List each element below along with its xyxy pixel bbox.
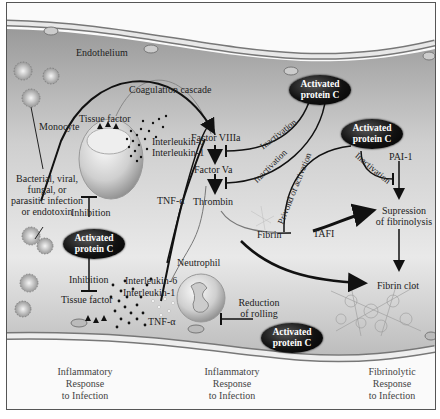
label-pai1: PAI-1 (389, 151, 413, 162)
caption-inflammatory-response-2: Inflammatory Response to Infection (177, 366, 287, 402)
label-fibrin: Fibrin (257, 229, 281, 240)
label-tissue-factor-bottom: Tissue factor (61, 294, 113, 305)
label-factor-viiia: Factor VIIIa (191, 132, 241, 143)
caption-inflammatory-response-1: Inflammatory Response to Infection (30, 366, 140, 402)
label-thrombin: Thrombin (193, 196, 233, 207)
label-reduction-of-rolling: Reduction of rolling (229, 297, 289, 319)
label-inhibition-2: Inhibition (69, 274, 108, 285)
label-fibrin-clot: Fibrin clot (377, 280, 419, 291)
label-interleukin6-bottom: Interleukin-6 (125, 275, 177, 286)
label-tafi: TAFI (313, 228, 334, 239)
label-monocyte: Monocyte (39, 121, 80, 132)
activated-protein-c-right: Activated protein C (341, 119, 403, 149)
activated-protein-c-top: Activated protein C (289, 75, 351, 105)
activated-protein-c-left: Activated protein C (63, 229, 125, 259)
label-tnf-alpha-bottom: TNF-α (148, 316, 175, 327)
caption-fibrinolytic-response: Fibrinolytic Response to Infection (337, 366, 436, 402)
diagram-frame: Endothelium Coagulation cascade Tissue f… (6, 2, 436, 410)
activated-protein-c-bottom: Activated protein C (261, 323, 323, 353)
label-coagulation-cascade: Coagulation cascade (129, 84, 211, 95)
label-inhibition-1: Inhibition (71, 207, 110, 218)
label-tnf-alpha-mid: TNF-α (157, 195, 184, 206)
label-interleukin1-bottom: Interleukin-1 (123, 287, 175, 298)
label-neutrophil: Neutrophil (177, 257, 220, 268)
label-factor-va: Factor Va (194, 164, 232, 175)
label-endothelium: Endothelium (76, 47, 128, 58)
label-suppression-of-fibrinolysis: Supression of fibrinolysis (369, 205, 436, 227)
label-tissue-factor-top: Tissue factor (79, 113, 131, 124)
label-interleukin1-top: Interleukin-1 (152, 147, 204, 158)
